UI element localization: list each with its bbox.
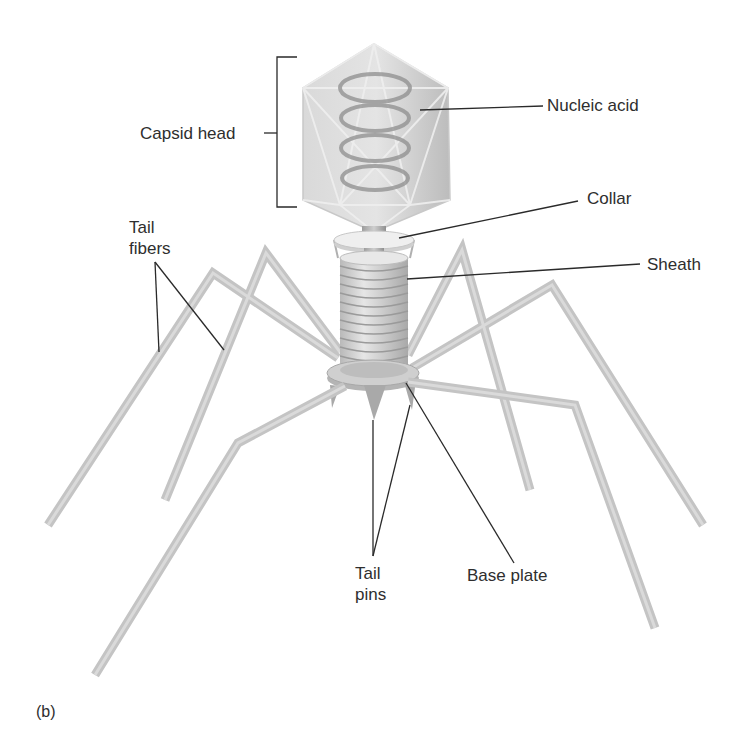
label-tail-pins-line2: pins (355, 584, 386, 605)
label-nucleic-acid: Nucleic acid (547, 95, 639, 116)
label-tail-fibers-line1: Tail (129, 217, 171, 238)
sheath (340, 251, 408, 370)
capsid-head (303, 44, 450, 232)
label-base-plate: Base plate (467, 565, 547, 586)
label-tail-fibers-line2: fibers (129, 238, 171, 259)
label-sheath: Sheath (647, 254, 701, 275)
panel-label: (b) (36, 701, 56, 722)
label-tail-pins-line1: Tail (355, 563, 386, 584)
label-collar: Collar (587, 188, 631, 209)
tail-fibers-front (95, 382, 655, 675)
label-capsid-head: Capsid head (140, 123, 235, 144)
label-tail-fibers: Tail fibers (129, 217, 171, 259)
label-tail-pins: Tail pins (355, 563, 386, 605)
